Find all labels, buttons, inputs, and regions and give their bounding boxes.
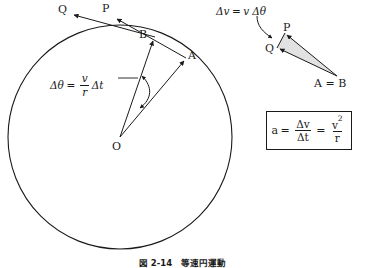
delta-v-equals: = [232,6,241,17]
velocity-triangle [277,33,337,76]
acceleration-frac1-numerator: Δv [294,119,312,131]
label-point-A: A [188,50,196,61]
delta-theta-denominator: r [80,85,89,98]
triangle-label-P: P [283,22,290,33]
acceleration-frac1-denominator: Δt [295,130,311,143]
label-point-B: B [139,29,147,40]
velocity-vector-P [117,19,186,58]
acceleration-frac2-denominator: r [333,131,342,144]
radius-OA [120,61,184,137]
delta-theta-numerator: v [80,73,90,85]
figure-caption: 図 2-14 等速円運動 [0,256,365,268]
delta-v-formula: Δv = v Δθ [216,6,266,17]
label-point-O: O [112,141,121,152]
triangle-label-Q: Q [265,43,274,54]
delta-theta-trailing: Δt [92,80,104,91]
label-point-Q: Q [58,4,67,15]
label-point-P: P [102,3,109,14]
acceleration-formula-box: a = Δv Δt = v2 r [266,111,352,150]
delta-v-lhs: Δv [216,6,230,17]
delta-theta-formula: Δθ = v r Δt [50,73,103,97]
delta-v-angle: Δθ [252,6,266,17]
delta-theta-fraction: v r [80,73,90,97]
acceleration-fraction-2: v2 r [330,118,345,144]
delta-v-leader-arrow [257,16,272,38]
delta-theta-equals: = [66,80,75,91]
acceleration-frac2-numerator: v2 [330,118,345,131]
acceleration-lhs: a [271,124,278,137]
radius-OB [120,41,153,137]
delta-theta-lhs: Δθ [50,80,64,91]
acceleration-equals-2: = [316,124,325,137]
acceleration-fraction-1: Δv Δt [294,119,312,143]
delta-v-scalar: v [243,6,249,17]
acceleration-frac2-exponent: 2 [338,114,343,123]
acceleration-equals-1: = [280,124,289,137]
triangle-label-A-equals-B: A = B [314,78,346,89]
